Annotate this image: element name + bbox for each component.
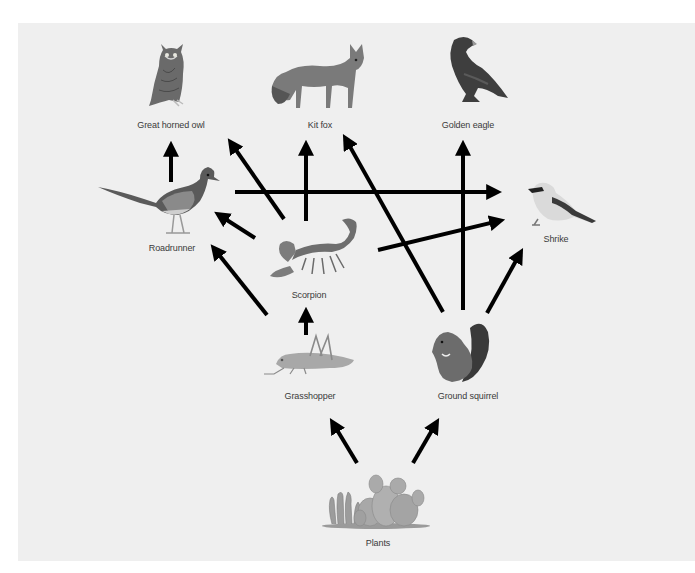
arrow-plants-to-ground-squirrel: [413, 424, 435, 463]
label-scorpion: Scorpion: [292, 290, 327, 300]
label-great-horned-owl: Great horned owl: [137, 120, 204, 130]
arrow-plants-to-grasshopper: [334, 424, 357, 463]
arrow-grasshopper-to-roadrunner: [215, 250, 267, 315]
owl-icon: [149, 44, 184, 106]
scorpion-icon: [270, 218, 357, 277]
roadrunner-icon: [98, 167, 220, 233]
food-web-diagram: [0, 0, 695, 573]
cactus-icon: [322, 475, 430, 529]
squirrel-icon: [432, 324, 489, 382]
arrow-scorpion-to-great-horned-owl: [232, 144, 284, 219]
arrow-scorpion-to-roadrunner: [220, 216, 255, 238]
arrows-layer: [171, 140, 520, 463]
label-shrike: Shrike: [544, 234, 569, 244]
shrike-icon: [528, 183, 596, 225]
label-plants: Plants: [366, 538, 390, 548]
arrow-ground-squirrel-to-shrike: [487, 254, 520, 313]
eagle-icon: [450, 37, 508, 102]
label-ground-squirrel: Ground squirrel: [438, 391, 499, 401]
arrow-ground-squirrel-to-kit-fox: [346, 140, 443, 312]
label-roadrunner: Roadrunner: [149, 243, 196, 253]
grasshopper-icon: [264, 336, 354, 374]
label-golden-eagle: Golden eagle: [442, 120, 494, 130]
fox-icon: [272, 44, 364, 108]
label-grasshopper: Grasshopper: [285, 391, 336, 401]
label-kit-fox: Kit fox: [308, 120, 332, 130]
